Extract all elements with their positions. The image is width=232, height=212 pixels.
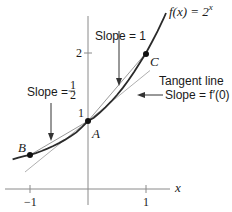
point-a-label: A <box>91 126 100 141</box>
tangent-slope-label: Slope = f′(0) <box>165 88 230 102</box>
point-b <box>27 152 33 158</box>
function-label: f(x) = 2x <box>169 2 213 19</box>
x-tick-label-neg1: −1 <box>24 195 37 209</box>
tangent-arrowhead <box>137 92 145 98</box>
exponential-slope-diagram: f(x) = 2x x 2 1 −1 1 A B C Slope = 1 Slo… <box>0 0 232 212</box>
tangent-line-label: Tangent line <box>159 74 224 88</box>
slope-one-label: Slope = 1 <box>95 29 146 43</box>
point-c <box>143 51 149 57</box>
point-b-label: B <box>18 140 26 155</box>
slope-half-den: 2 <box>70 88 76 102</box>
slope-half-arrowhead <box>48 133 54 141</box>
x-tick-label-1: 1 <box>143 195 149 209</box>
slope-half-label: Slope = <box>27 85 68 99</box>
secant-ba <box>30 121 88 155</box>
y-tick-label-1: 1 <box>78 106 84 120</box>
secant-ac <box>88 53 146 121</box>
point-a <box>85 118 91 124</box>
point-c-label: C <box>150 54 159 69</box>
x-axis-label: x <box>174 180 181 195</box>
y-tick-label-2: 2 <box>76 46 82 60</box>
